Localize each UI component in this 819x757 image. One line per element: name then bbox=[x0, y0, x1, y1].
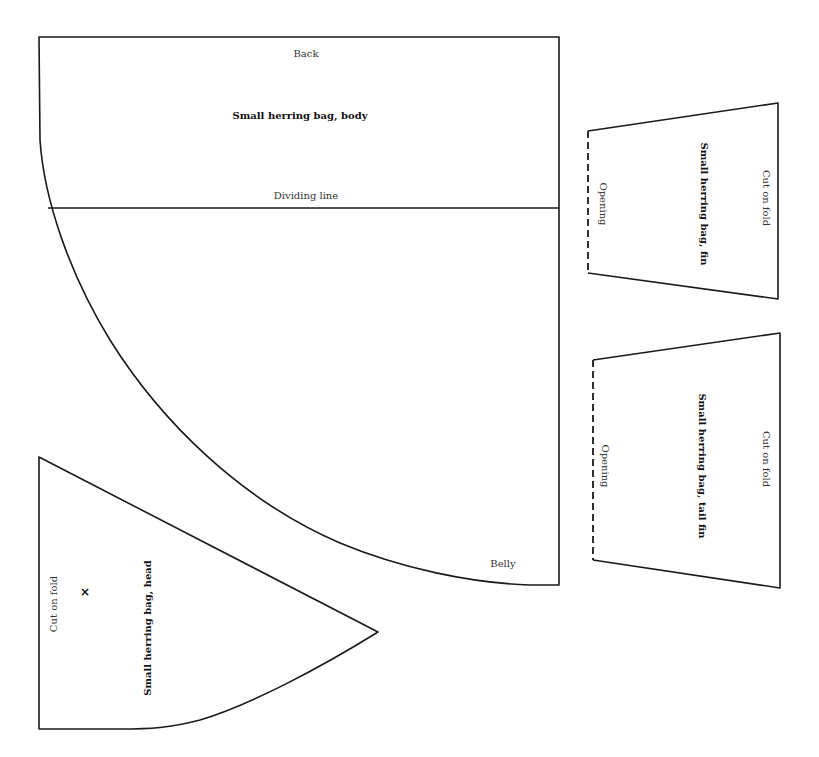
head-cut-on-fold-label: Cut on fold bbox=[49, 576, 59, 632]
tail-fin-cut-on-fold-label: Cut on fold bbox=[761, 431, 771, 487]
body-title: Small herring bag, body bbox=[233, 111, 368, 121]
body-dividing-line-label: Dividing line bbox=[274, 191, 338, 201]
sewing-pattern-diagram bbox=[0, 0, 819, 757]
head-title: Small herring bag, head bbox=[143, 560, 153, 696]
fin-piece-outline bbox=[588, 103, 778, 299]
body-back-label: Back bbox=[294, 49, 319, 59]
fin-title: Small herring bag, fin bbox=[699, 142, 709, 265]
tail-fin-piece-outline bbox=[593, 333, 780, 588]
tail-fin-title: Small herring bag, tail fin bbox=[697, 393, 707, 538]
fin-cut-on-fold-label: Cut on fold bbox=[761, 170, 771, 226]
body-belly-label: Belly bbox=[490, 559, 515, 569]
tail-fin-opening-label: Opening bbox=[600, 445, 610, 488]
eye-mark-icon: × bbox=[80, 586, 90, 598]
fin-opening-label: Opening bbox=[598, 183, 608, 226]
